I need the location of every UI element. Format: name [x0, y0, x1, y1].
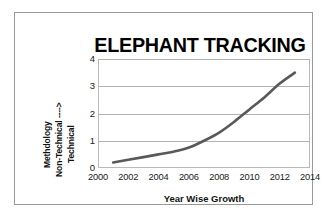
y-axis-tick-label: 2: [79, 109, 95, 119]
y-axis-label-technical: Technical: [66, 125, 76, 163]
x-axis-tick-label: 2006: [174, 171, 204, 183]
x-axis-title: Year Wise Growth: [98, 193, 310, 204]
x-axis-tick-label: 2004: [144, 171, 174, 183]
y-axis-tick-labels: 01234: [77, 59, 95, 168]
figure-frame: ELEPHANT TRACKING Methdology Non-Technic…: [14, 12, 313, 205]
y-axis-label-methodology: Methdology: [42, 121, 52, 168]
x-axis-tick-label: 2014: [295, 171, 325, 183]
series-line-chart: [98, 59, 310, 168]
x-axis-tick-label: 2000: [83, 171, 113, 183]
x-axis-tick-label: 2002: [113, 171, 143, 183]
y-axis-tick-label: 4: [79, 54, 95, 64]
x-axis-tick-label: 2012: [265, 171, 295, 183]
chart-title: ELEPHANT TRACKING: [83, 33, 318, 57]
y-axis-label-non-technical: Non-Technical ---->: [54, 102, 64, 177]
x-axis-tick-labels: 20002002200420062008201020122014: [98, 171, 310, 185]
plot-area: [98, 59, 310, 168]
chart-figure: ELEPHANT TRACKING Methdology Non-Technic…: [0, 0, 328, 220]
gridlines: [98, 60, 310, 142]
y-axis-tick-label: 3: [79, 81, 95, 91]
x-axis-tick-label: 2008: [204, 171, 234, 183]
y-axis-tick-label: 1: [79, 136, 95, 146]
x-axis-tick-label: 2010: [234, 171, 264, 183]
